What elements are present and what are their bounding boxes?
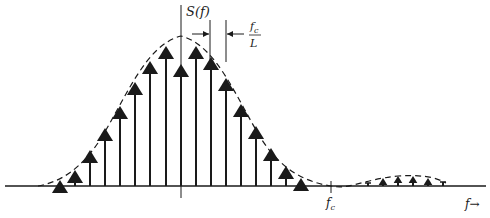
arrowhead-icon: [82, 150, 98, 163]
arrowhead-icon: [233, 104, 249, 117]
arrowhead-icon: [142, 61, 158, 74]
fc-label: fc: [325, 196, 335, 212]
y-axis-label: S(f): [186, 4, 210, 19]
svg-text:L: L: [249, 37, 257, 50]
spectral-lines: [52, 46, 446, 193]
arrowhead-icon: [227, 31, 233, 37]
arrowhead-icon: [127, 82, 143, 95]
arrowhead-icon: [112, 106, 128, 119]
arrowhead-icon: [188, 46, 204, 59]
spectrum-diagram: S(f) fc L fc f→: [0, 0, 490, 218]
spacing-label: fc L: [249, 20, 261, 50]
arrowhead-icon: [67, 170, 83, 183]
arrowhead-icon: [97, 128, 113, 141]
arrowhead-icon: [158, 46, 174, 59]
arrowhead-icon: [278, 166, 294, 179]
arrowhead-icon: [218, 78, 234, 91]
arrowhead-icon: [424, 178, 433, 185]
arrowhead-icon: [203, 31, 209, 37]
svg-text:fc: fc: [249, 20, 259, 35]
arrowhead-icon: [394, 176, 403, 183]
arrowhead-icon: [293, 178, 309, 191]
x-axis-label: f→: [464, 197, 480, 211]
arrowhead-icon: [409, 176, 418, 183]
arrowhead-icon: [263, 148, 279, 161]
arrowhead-icon: [173, 64, 189, 77]
arrowhead-icon: [248, 126, 264, 139]
